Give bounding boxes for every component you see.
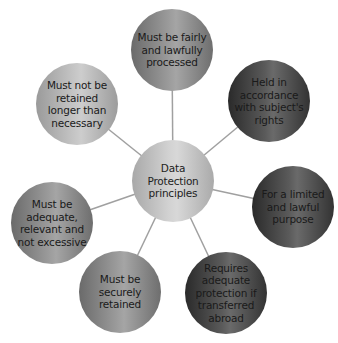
principle-label: Must be securely retained: [85, 273, 155, 311]
principle-securely-retained: Must be securely retained: [79, 251, 161, 333]
principle-label: Held in accordance with subject's rights: [234, 76, 304, 126]
principle-label: Must not be retained longer than necessa…: [42, 79, 112, 129]
principle-limited-purpose: For a limited and lawful purpose: [252, 166, 334, 248]
principle-label: For a limited and lawful purpose: [258, 188, 328, 226]
principle-adequate-relevant: Must be adequate, relevant and not exces…: [11, 182, 93, 264]
principle-label: Requires adequate protection if transfer…: [191, 262, 261, 325]
principle-retention-limit: Must not be retained longer than necessa…: [36, 63, 118, 145]
principle-transfer-abroad: Requires adequate protection if transfer…: [185, 252, 267, 334]
principle-subject-rights: Held in accordance with subject's rights: [228, 60, 310, 142]
principle-fairly-lawfully-processed: Must be fairly and lawfully processed: [131, 9, 213, 91]
center-node: Data Protection principles: [132, 140, 214, 222]
principle-label: Must be fairly and lawfully processed: [137, 31, 207, 69]
center-label: Data Protection principles: [138, 162, 208, 200]
principle-label: Must be adequate, relevant and not exces…: [17, 198, 87, 248]
